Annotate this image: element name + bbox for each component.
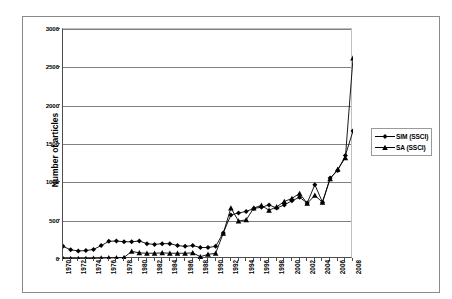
legend-label: SA (SSCI) bbox=[396, 144, 426, 151]
data-point-marker bbox=[289, 196, 295, 201]
legend-item-sa: SA (SSCI) bbox=[374, 142, 428, 153]
data-point-marker bbox=[144, 241, 149, 246]
data-point-marker bbox=[91, 247, 96, 252]
y-tick-mark bbox=[57, 258, 60, 259]
data-point-marker bbox=[99, 243, 104, 248]
data-point-marker bbox=[351, 128, 354, 133]
y-tick-mark bbox=[57, 143, 60, 144]
x-tick-label: 2002 bbox=[309, 260, 316, 274]
data-point-marker bbox=[244, 209, 249, 214]
chart-legend: SIM (SSCI) SA (SSCI) bbox=[371, 128, 432, 156]
x-tick-label: 1992 bbox=[232, 260, 239, 274]
series-line bbox=[63, 131, 353, 251]
data-point-marker bbox=[63, 244, 66, 249]
x-tick-label: 1982 bbox=[156, 260, 163, 274]
data-point-marker bbox=[106, 239, 111, 244]
x-tick-label: 2008 bbox=[355, 260, 362, 274]
x-tick-label: 1996 bbox=[263, 260, 270, 274]
data-point-marker bbox=[236, 211, 241, 216]
y-tick-mark bbox=[57, 104, 60, 105]
x-tick-mark bbox=[352, 258, 353, 261]
data-point-marker bbox=[190, 243, 195, 248]
y-tick-mark bbox=[57, 28, 60, 29]
data-point-marker bbox=[137, 238, 142, 243]
triangle-marker-icon bbox=[374, 142, 396, 153]
data-point-marker bbox=[160, 241, 165, 246]
data-point-marker bbox=[213, 250, 219, 255]
data-point-marker bbox=[83, 248, 88, 253]
x-tick-label: 1972 bbox=[80, 260, 87, 274]
data-point-marker bbox=[297, 191, 303, 196]
y-tick-mark bbox=[57, 219, 60, 220]
x-axis-tick-labels: 1970197219741976197819801982198419861988… bbox=[62, 260, 352, 294]
x-tick-label: 1970 bbox=[65, 260, 72, 274]
x-tick-label: 2004 bbox=[324, 260, 331, 274]
x-tick-label: 1988 bbox=[202, 260, 209, 274]
x-tick-label: 1998 bbox=[278, 260, 285, 274]
plot-area bbox=[62, 28, 352, 258]
data-point-marker bbox=[312, 193, 318, 198]
chart-figure: Number of articles 050010001500200025003… bbox=[0, 0, 452, 299]
data-point-marker bbox=[129, 249, 135, 254]
legend-item-sim: SIM (SSCI) bbox=[374, 131, 428, 142]
x-tick-label: 1984 bbox=[171, 260, 178, 274]
data-point-marker bbox=[198, 245, 203, 250]
x-tick-label: 1980 bbox=[141, 260, 148, 274]
data-point-marker bbox=[274, 204, 280, 209]
data-point-marker bbox=[183, 244, 188, 249]
data-point-marker bbox=[350, 55, 353, 60]
data-point-marker bbox=[243, 217, 249, 222]
x-tick-label: 2000 bbox=[294, 260, 301, 274]
data-point-marker bbox=[129, 239, 134, 244]
data-point-marker bbox=[228, 205, 234, 210]
data-point-marker bbox=[266, 208, 272, 213]
series-line bbox=[63, 58, 353, 258]
x-tick-label: 1990 bbox=[217, 260, 224, 274]
data-point-marker bbox=[206, 245, 211, 250]
data-point-marker bbox=[267, 202, 272, 207]
data-point-marker bbox=[175, 243, 180, 248]
data-point-marker bbox=[114, 238, 119, 243]
data-point-marker bbox=[312, 182, 317, 187]
x-tick-label: 1986 bbox=[187, 260, 194, 274]
legend-label: SIM (SSCI) bbox=[396, 133, 428, 140]
data-point-marker bbox=[282, 199, 288, 204]
x-tick-label: 1994 bbox=[248, 260, 255, 274]
series-layer bbox=[63, 29, 353, 259]
x-tick-label: 1974 bbox=[95, 260, 102, 274]
x-tick-label: 1978 bbox=[126, 260, 133, 274]
y-tick-mark bbox=[57, 66, 60, 67]
x-tick-label: 2006 bbox=[339, 260, 346, 274]
data-point-marker bbox=[122, 239, 127, 244]
diamond-marker-icon bbox=[374, 131, 396, 142]
y-tick-mark bbox=[57, 181, 60, 182]
data-point-marker bbox=[76, 248, 81, 253]
y-axis-tick-labels: 050010001500200025003000 bbox=[32, 28, 59, 258]
data-point-marker bbox=[259, 203, 265, 208]
data-point-marker bbox=[167, 241, 172, 246]
data-point-marker bbox=[68, 247, 73, 252]
x-tick-label: 1976 bbox=[110, 260, 117, 274]
data-point-marker bbox=[152, 242, 157, 247]
